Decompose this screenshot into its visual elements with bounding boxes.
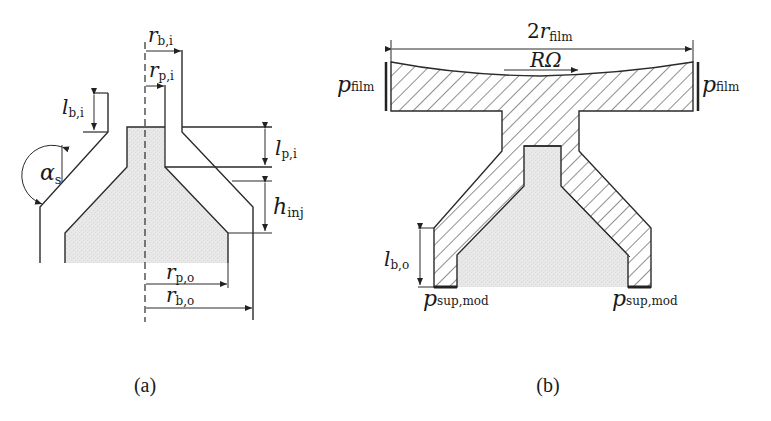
label-h-inj: hinj	[273, 194, 304, 220]
caption-b: (b)	[536, 374, 559, 397]
label-l-bo: lb,o	[384, 247, 409, 272]
poppet-body	[65, 127, 228, 263]
label-2r-film: 2rfilm	[527, 19, 573, 44]
label-r-po: rp,o	[166, 260, 194, 285]
label-r-bi: rb,i	[148, 23, 173, 48]
label-rotation: RΩ	[529, 48, 562, 72]
label-p-sup-right: psup,mod	[612, 286, 678, 311]
label-r-bo: rb,o	[166, 283, 194, 308]
label-p-sup-left: psup,mod	[423, 286, 489, 311]
label-r-pi: rp,i	[149, 58, 174, 83]
label-l-pi: lp,i	[275, 136, 297, 161]
panel-a: rb,i rp,i lb,i αs lp,i hinj rp,o rb,o (a…	[22, 23, 304, 397]
poppet-stem-line	[165, 85, 272, 167]
label-alpha-s: αs	[40, 160, 62, 187]
label-p-film-right: pfilm	[702, 72, 740, 97]
caption-a: (a)	[134, 374, 156, 397]
figure-canvas: rb,i rp,i lb,i αs lp,i hinj rp,o rb,o (a…	[0, 0, 771, 421]
panel-b: 2rfilm RΩ pfilm pfilm lb,o psup,mod psup…	[337, 19, 740, 397]
label-p-film-left: pfilm	[337, 72, 375, 97]
label-l-bi: lb,i	[62, 95, 84, 120]
